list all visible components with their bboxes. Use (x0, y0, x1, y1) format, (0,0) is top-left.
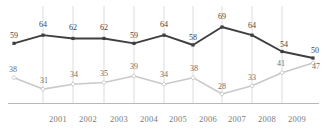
data-point-marker (280, 50, 283, 53)
x-axis-tick-label: 2002 (79, 115, 97, 124)
data-value-label: 35 (100, 70, 108, 78)
data-value-label: 38 (9, 66, 17, 74)
data-point-marker (132, 74, 136, 78)
data-value-label: 34 (160, 71, 168, 79)
x-axis-tick-label: 2008 (258, 115, 276, 124)
data-point-marker (162, 82, 166, 86)
data-value-label: 34 (70, 71, 78, 79)
data-value-label: 39 (130, 63, 138, 71)
data-point-marker (71, 37, 74, 40)
data-point-marker (102, 37, 105, 40)
data-value-label: 64 (160, 21, 168, 29)
data-value-label: 62 (69, 24, 77, 32)
data-point-marker (41, 34, 44, 37)
data-value-label: 47 (312, 63, 320, 71)
data-point-marker (132, 42, 135, 45)
data-point-marker (102, 80, 106, 84)
data-value-label: 62 (100, 24, 108, 32)
data-value-label: 64 (248, 22, 256, 30)
data-point-marker (220, 25, 223, 28)
data-value-label: 31 (40, 77, 48, 85)
data-value-label: 41 (277, 60, 285, 68)
data-value-label: 59 (10, 32, 18, 40)
x-axis-tick-label: 2003 (110, 115, 128, 124)
data-value-label: 58 (189, 34, 197, 42)
data-point-marker (311, 56, 314, 59)
data-point-marker (162, 34, 165, 37)
data-value-label: 59 (130, 32, 138, 40)
data-point-marker (71, 82, 75, 86)
data-value-label: 50 (311, 47, 319, 55)
x-axis-tick-label: 2007 (228, 115, 246, 124)
x-axis-tick-label: 2006 (199, 115, 217, 124)
data-point-marker (250, 34, 253, 37)
x-axis-tick-label: 2004 (140, 115, 158, 124)
data-value-label: 54 (280, 41, 288, 49)
data-point-marker (12, 75, 16, 79)
data-point-marker (41, 87, 45, 91)
data-value-label: 33 (248, 74, 256, 82)
data-value-label: 28 (218, 83, 226, 91)
x-axis-tick-label: 2009 (288, 115, 306, 124)
x-axis-tick-label: 2005 (169, 115, 187, 124)
data-value-label: 69 (218, 13, 226, 21)
data-value-label: 38 (190, 65, 198, 73)
line-chart: 5964626259645869645450 38313435393438283… (0, 0, 327, 138)
data-value-label: 64 (39, 21, 47, 29)
x-axis-tick-label: 2001 (49, 115, 67, 124)
data-point-marker (191, 43, 194, 46)
data-point-marker (12, 42, 15, 45)
